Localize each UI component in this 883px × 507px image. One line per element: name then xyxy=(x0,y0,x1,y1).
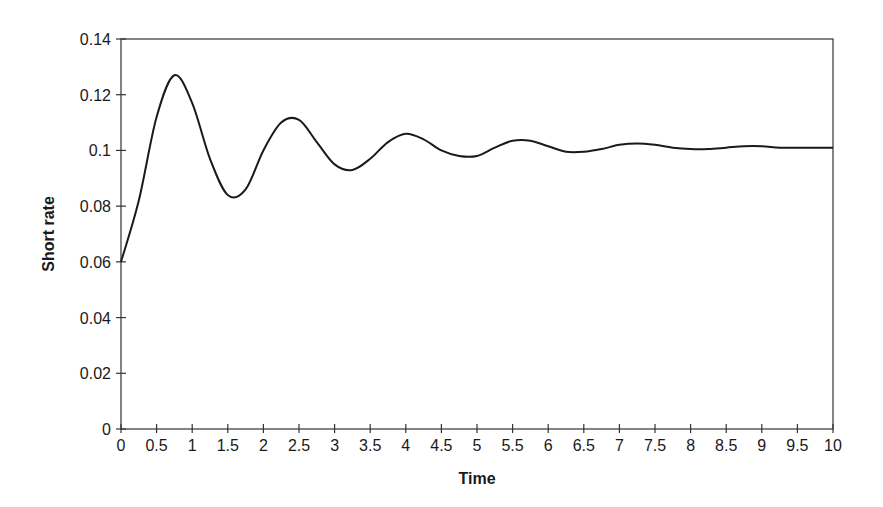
x-tick-label: 7 xyxy=(615,437,624,454)
y-axis: 00.020.040.060.080.10.120.14 xyxy=(80,31,126,438)
x-tick-label: 4 xyxy=(401,437,410,454)
x-axis-title: Time xyxy=(458,470,495,487)
x-tick-label: 8.5 xyxy=(715,437,737,454)
x-tick-label: 5 xyxy=(473,437,482,454)
y-tick-label: 0.08 xyxy=(80,198,111,215)
x-tick-label: 3 xyxy=(330,437,339,454)
x-tick-label: 6 xyxy=(544,437,553,454)
x-tick-label: 2 xyxy=(259,437,268,454)
x-tick-label: 4.5 xyxy=(430,437,452,454)
x-tick-label: 2.5 xyxy=(288,437,310,454)
x-tick-label: 0.5 xyxy=(145,437,167,454)
x-tick-label: 1.5 xyxy=(217,437,239,454)
y-tick-label: 0 xyxy=(102,421,111,438)
y-tick-label: 0.04 xyxy=(80,310,111,327)
y-axis-title: Short rate xyxy=(40,196,57,272)
y-tick-label: 0.02 xyxy=(80,365,111,382)
y-tick-label: 0.06 xyxy=(80,254,111,271)
x-tick-label: 0 xyxy=(117,437,126,454)
y-tick-label: 0.12 xyxy=(80,87,111,104)
plot-border xyxy=(121,39,833,429)
x-tick-label: 8 xyxy=(686,437,695,454)
x-tick-label: 9 xyxy=(757,437,766,454)
x-tick-label: 3.5 xyxy=(359,437,381,454)
y-tick-label: 0.1 xyxy=(89,142,111,159)
y-tick-label: 0.14 xyxy=(80,31,111,48)
x-tick-label: 10 xyxy=(824,437,842,454)
x-tick-label: 1 xyxy=(188,437,197,454)
x-tick-label: 5.5 xyxy=(501,437,523,454)
plot-area xyxy=(121,39,833,429)
x-tick-label: 7.5 xyxy=(644,437,666,454)
x-tick-label: 6.5 xyxy=(573,437,595,454)
x-tick-label: 9.5 xyxy=(786,437,808,454)
line-chart: 00.020.040.060.080.10.120.14 00.511.522.… xyxy=(0,0,883,507)
